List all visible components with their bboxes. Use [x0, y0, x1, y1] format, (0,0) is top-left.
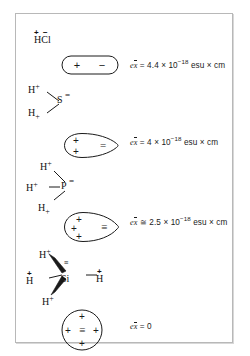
sih4-atom-h-right: H: [96, 273, 103, 284]
ph3-atom-h-bottom: H+: [38, 202, 50, 216]
ph3-atom-h-left: H+: [26, 180, 38, 193]
hcl-eq-exponent: −18: [178, 58, 189, 65]
hcl-eq-var: x: [134, 61, 138, 70]
ph3-eq-times: ×: [163, 218, 168, 227]
h2s-atom-h-top: H+: [28, 82, 40, 95]
h2s-atom-s: S: [57, 94, 63, 105]
svg-text:=: =: [100, 139, 106, 151]
figure-frame: + − HCl + − ex = 4.4 × 10−18 esu × cm H+…: [15, 13, 233, 343]
h2s-eq-relation: =: [140, 138, 145, 147]
sih4-eq-var: x: [134, 322, 138, 331]
svg-text:≡: ≡: [79, 324, 85, 336]
ph3-eq-relation: ≅: [140, 218, 147, 227]
hcl-formula: HCl: [34, 34, 51, 45]
h2s-eq-units: esu × cm: [184, 138, 218, 147]
h2s-lone-pairs: =: [65, 91, 70, 100]
ph3-atom-h-top: H+: [40, 159, 52, 172]
h2s-eq-var: x: [134, 138, 138, 147]
svg-text:+: +: [76, 214, 82, 225]
h2s-eq-exponent: −18: [171, 135, 182, 142]
ph3-atom-p: P: [61, 180, 67, 191]
sih4-atom-h-top: H+: [39, 247, 51, 260]
hcl-eq-relation: =: [140, 61, 145, 70]
ph3-charge-teardrop: + + + ≡: [63, 211, 121, 243]
hcl-charge-capsule: + −: [61, 55, 119, 75]
sih4-lone-pairs: ≡: [64, 259, 69, 267]
sih4-atom-si: Si: [61, 273, 69, 284]
sih4-charge-circle: + + + + ≡: [60, 308, 104, 352]
svg-text:+: +: [93, 325, 99, 336]
h2s-eq-times: ×: [154, 138, 159, 147]
hcl-eq-base: 10: [168, 61, 177, 70]
dipole-moment-figure: + − HCl + − ex = 4.4 × 10−18 esu × cm H+…: [0, 0, 250, 356]
hcl-dipole-equation: ex = 4.4 × 10−18 esu × cm: [130, 58, 225, 70]
svg-text:+: +: [73, 135, 79, 146]
ph3-dipole-equation: ex ≅ 2.5 × 10−18 esu × cm: [130, 215, 227, 227]
hcl-eq-times: ×: [161, 61, 166, 70]
svg-text:+: +: [76, 231, 82, 242]
sih4-eq-relation: =: [140, 322, 145, 331]
ph3-eq-coefficient: 2.5: [149, 218, 161, 227]
h2s-eq-coefficient: 4: [147, 138, 152, 147]
h2s-atom-h-bottom: H+: [28, 107, 40, 121]
h2s-dipole-equation: ex = 4 × 10−18 esu × cm: [130, 135, 218, 147]
sih4-eq-coefficient: 0: [147, 322, 152, 331]
svg-text:+: +: [79, 311, 85, 322]
sih4-atom-h-left: H: [26, 275, 33, 286]
ph3-eq-var: x: [134, 218, 138, 227]
sih4-atom-h-bottom: H+: [42, 294, 54, 307]
ph3-eq-exponent: −18: [180, 215, 191, 222]
ph3-lone-pairs: =: [69, 177, 74, 186]
ph3-eq-base: 10: [171, 218, 180, 227]
svg-text:+: +: [74, 59, 80, 71]
hcl-eq-units: esu × cm: [191, 61, 225, 70]
svg-text:+: +: [79, 338, 85, 349]
sih4-dipole-equation: ex = 0: [130, 322, 152, 331]
svg-text:−: −: [99, 59, 105, 71]
svg-text:≡: ≡: [101, 221, 107, 233]
svg-text:+: +: [65, 325, 71, 336]
h2s-eq-base: 10: [161, 138, 170, 147]
ph3-eq-units: esu × cm: [193, 218, 227, 227]
hcl-eq-coefficient: 4.4: [147, 61, 159, 70]
